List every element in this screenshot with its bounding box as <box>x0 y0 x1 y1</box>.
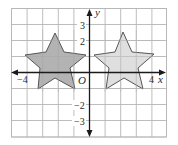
origin-label: O <box>78 74 86 86</box>
tick-label-x-pos4: 4 <box>149 74 154 85</box>
y-axis-arrow-down-icon <box>87 130 93 137</box>
x-axis-label: x <box>157 73 163 85</box>
tick-label-y-pos3: 3 <box>80 20 85 31</box>
y-axis-label: y <box>94 6 100 18</box>
left-star <box>25 33 86 89</box>
y-axis-arrow-up-icon <box>87 9 93 16</box>
tick-label-y-neg3: −3 <box>74 116 85 127</box>
coordinate-plane: −4 4 3 2 −2 −3 O x y <box>0 0 178 145</box>
x-axis <box>11 70 166 76</box>
tick-label-y-neg2: −2 <box>74 100 85 111</box>
tick-label-y-pos2: 2 <box>80 36 85 47</box>
tick-label-x-neg4: −4 <box>17 74 28 85</box>
